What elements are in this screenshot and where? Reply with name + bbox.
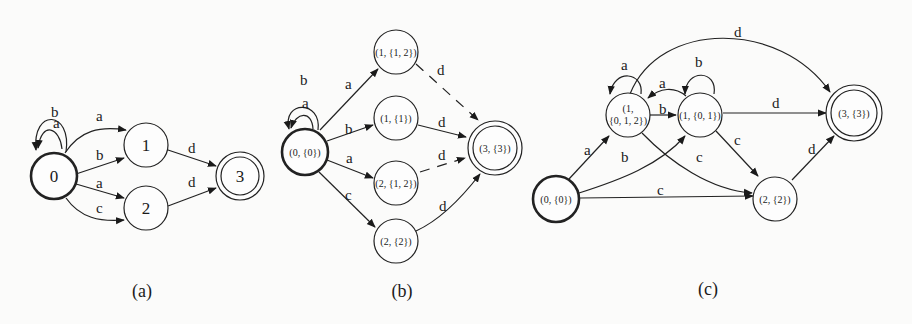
edge-label: d [772, 95, 780, 111]
edge-label: b [659, 101, 667, 117]
edge-label: b [621, 149, 629, 165]
state-label: {0, 1, 2}) [609, 115, 647, 127]
edge-label: a [621, 57, 628, 73]
state-label: (2, {2}) [380, 236, 411, 248]
panel-c: a b c a b a b c c d d d (0, {0}) (1, {0,… [533, 24, 882, 300]
edge-label: c [96, 200, 103, 216]
edge-c0-c2-b [579, 136, 685, 193]
edge-label: a [96, 108, 103, 124]
state-label: 1 [142, 136, 151, 155]
state-label: 0 [50, 167, 59, 186]
state-label: (1, {0, 1}) [679, 110, 720, 122]
edge-c2-c2-b [685, 75, 714, 94]
edge-label: b [300, 72, 308, 88]
edge-2-3-d [168, 188, 216, 206]
automata-figure: a b a b a c d d 0 1 2 3 (a) a b a [0, 0, 912, 324]
edge-0-0-a [38, 130, 62, 149]
edge-label: a [659, 75, 666, 91]
state-label: (0, {0}) [540, 194, 571, 206]
edge-label: d [188, 174, 196, 190]
edge-b0-b0-a [291, 115, 313, 129]
state-label: 3 [236, 167, 245, 186]
state-label: (2, {1, 2}) [375, 178, 416, 190]
edge-label: a [345, 76, 352, 92]
state-label: (1, {1}) [380, 113, 411, 125]
edge-label: b [695, 54, 703, 70]
panel-a: a b a b a c d d 0 1 2 3 (a) [31, 104, 264, 302]
edge-label: c [345, 187, 352, 203]
state-label: (1, {1, 2}) [375, 47, 416, 59]
edge-label: d [188, 140, 196, 156]
edge-label: a [302, 95, 309, 111]
edge-label: a [96, 175, 103, 191]
edge-label: c [696, 149, 703, 165]
panel-caption-c: (c) [698, 279, 718, 300]
edge-c1-c1-a [610, 76, 641, 94]
panel-caption-a: (a) [132, 281, 152, 302]
edge-label: a [346, 150, 353, 166]
edge-c2-c1-a [648, 89, 686, 98]
edge-label: c [734, 132, 741, 148]
edge-label: c [657, 182, 664, 198]
edge-b1-b5-d [416, 64, 478, 120]
edge-c0-c3-c [580, 196, 753, 198]
edge-label: d [734, 24, 742, 40]
state-label: (0, {0}) [289, 147, 320, 159]
state-label: (3, {3}) [838, 108, 869, 120]
edge-label: d [438, 114, 446, 130]
edge-label: b [51, 104, 59, 120]
edge-label: b [345, 121, 353, 137]
edge-label: d [439, 198, 447, 214]
edge-label: a [584, 142, 591, 158]
state-label: 2 [142, 199, 151, 218]
edge-label: d [437, 62, 445, 78]
edge-label: b [96, 147, 104, 163]
state-label: (3, {3}) [479, 143, 510, 155]
edge-b4-b5-d [416, 174, 480, 231]
panel-b: a b a b a c d d d d (0, {0}) (1, {1, 2})… [282, 30, 522, 302]
edge-label: d [808, 141, 816, 157]
state-label: (2, {2}) [759, 194, 790, 206]
panel-caption-b: (b) [392, 281, 413, 302]
edge-0-2-c [66, 198, 124, 220]
edge-label: d [438, 147, 446, 163]
state-label: (1, [623, 103, 634, 115]
